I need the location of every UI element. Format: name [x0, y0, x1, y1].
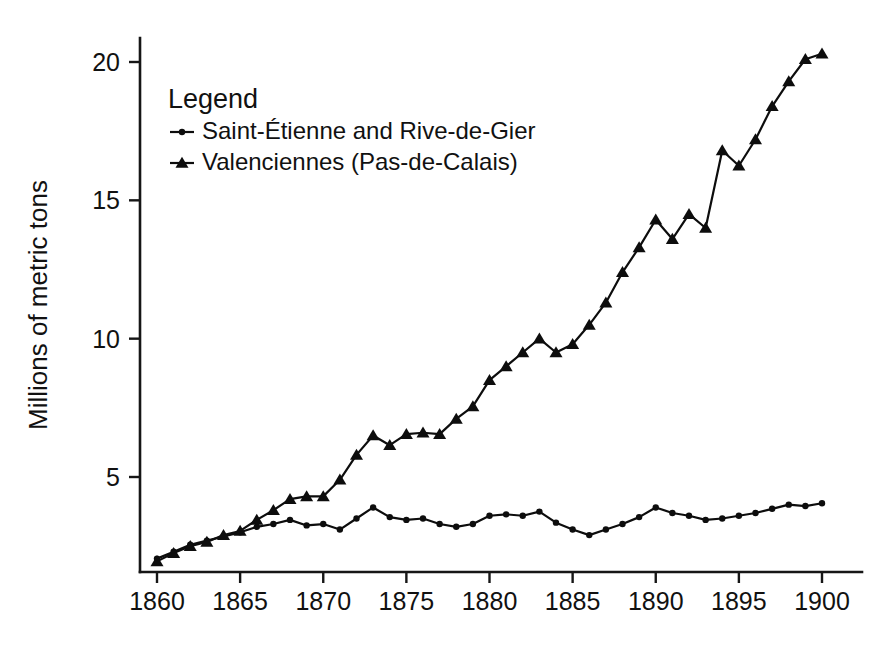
- data-point-marker-triangle: [599, 297, 612, 308]
- y-tick-label: 20: [92, 48, 120, 76]
- data-point-marker-dot: [453, 524, 459, 530]
- data-point-marker-triangle: [766, 100, 779, 111]
- data-point-marker-dot: [702, 517, 708, 523]
- data-point-marker-dot: [569, 526, 575, 532]
- data-point-marker-dot: [553, 519, 559, 525]
- data-point-marker-triangle: [167, 547, 180, 558]
- data-point-marker-dot: [436, 521, 442, 527]
- chart-page: 5101520 18601865187018751880188518901895…: [0, 0, 893, 645]
- data-point-marker-dot: [320, 521, 326, 527]
- data-point-marker-dot: [470, 521, 476, 527]
- data-point-marker-dot: [669, 510, 675, 516]
- data-point-marker-dot: [179, 129, 185, 135]
- data-point-marker-dot: [303, 522, 309, 528]
- data-point-marker-dot: [370, 504, 376, 510]
- data-point-marker-triangle: [716, 144, 729, 155]
- y-tick-label: 15: [92, 186, 120, 214]
- x-tick-labels: 186018651870187518801885189018951900: [129, 587, 850, 615]
- data-point-marker-dot: [270, 521, 276, 527]
- x-tick-label: 1875: [379, 587, 435, 615]
- data-point-marker-triangle: [333, 474, 346, 485]
- line-chart: 5101520 18601865187018751880188518901895…: [0, 0, 893, 645]
- data-point-marker-triangle: [616, 266, 629, 277]
- y-axis-title: Millions of metric tons: [23, 180, 53, 430]
- data-point-marker-dot: [503, 511, 509, 517]
- data-point-marker-dot: [769, 506, 775, 512]
- data-point-marker-triangle: [682, 208, 695, 219]
- data-point-marker-triangle: [250, 514, 263, 525]
- x-tick-label: 1890: [628, 587, 684, 615]
- data-point-marker-triangle: [367, 429, 380, 440]
- data-point-marker-dot: [636, 514, 642, 520]
- data-point-marker-dot: [403, 517, 409, 523]
- data-point-marker-dot: [752, 510, 758, 516]
- series-line-1: [157, 503, 822, 558]
- data-point-marker-dot: [786, 501, 792, 507]
- y-axis-title-text: Millions of metric tons: [23, 180, 53, 430]
- data-point-marker-dot: [653, 504, 659, 510]
- data-point-marker-dot: [686, 513, 692, 519]
- data-point-marker-dot: [802, 503, 808, 509]
- series-1: [154, 500, 825, 562]
- data-point-marker-dot: [586, 532, 592, 538]
- data-point-marker-dot: [819, 500, 825, 506]
- x-tick-label: 1885: [545, 587, 601, 615]
- legend-item-label: Saint-Étienne and Rive-de-Gier: [202, 117, 536, 144]
- data-point-marker-triangle: [633, 241, 646, 252]
- data-point-marker-dot: [603, 526, 609, 532]
- data-point-marker-dot: [619, 521, 625, 527]
- data-point-marker-triangle: [533, 332, 546, 343]
- x-tick-label: 1900: [794, 587, 850, 615]
- y-tick-label: 5: [106, 463, 120, 491]
- data-point-marker-dot: [420, 515, 426, 521]
- data-point-marker-triangle: [749, 133, 762, 144]
- data-point-marker-triangle: [815, 48, 828, 59]
- data-point-marker-dot: [736, 513, 742, 519]
- data-point-marker-triangle: [383, 439, 396, 450]
- y-tick-labels: 5101520: [92, 48, 120, 491]
- data-point-marker-triangle: [466, 400, 479, 411]
- x-tick-label: 1860: [129, 587, 185, 615]
- data-point-marker-triangle: [267, 504, 280, 515]
- data-point-marker-dot: [353, 515, 359, 521]
- data-point-marker-dot: [520, 513, 526, 519]
- legend-item-1[interactable]: Saint-Étienne and Rive-de-Gier: [170, 117, 536, 144]
- data-point-marker-dot: [536, 508, 542, 514]
- y-tick-label: 10: [92, 325, 120, 353]
- x-tick-label: 1865: [212, 587, 268, 615]
- x-tick-label: 1895: [711, 587, 767, 615]
- x-tick-label: 1880: [462, 587, 518, 615]
- legend-title-text: Legend: [168, 84, 258, 114]
- data-point-marker-dot: [387, 514, 393, 520]
- data-point-marker-dot: [719, 515, 725, 521]
- legend-item-label: Valenciennes (Pas-de-Calais): [202, 148, 518, 175]
- legend-item-2[interactable]: Valenciennes (Pas-de-Calais): [170, 148, 518, 175]
- data-point-marker-dot: [337, 526, 343, 532]
- data-point-marker-dot: [287, 517, 293, 523]
- data-point-marker-triangle: [649, 214, 662, 225]
- data-point-marker-dot: [486, 513, 492, 519]
- x-tick-label: 1870: [295, 587, 351, 615]
- chart-legend: LegendSaint-Étienne and Rive-de-GierVale…: [168, 84, 536, 175]
